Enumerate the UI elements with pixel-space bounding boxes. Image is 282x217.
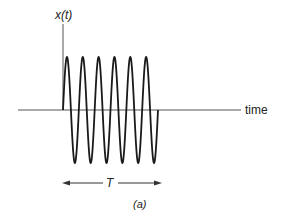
- subfigure-label: (a): [133, 198, 147, 210]
- x-axis-label: time: [245, 103, 268, 117]
- duration-label: T: [106, 176, 115, 190]
- arrow-head-left-icon: [62, 181, 70, 186]
- tone-burst-diagram: x(t) time T (a): [0, 0, 282, 217]
- y-axis-label: x(t): [54, 8, 72, 22]
- arrow-head-right-icon: [154, 181, 162, 186]
